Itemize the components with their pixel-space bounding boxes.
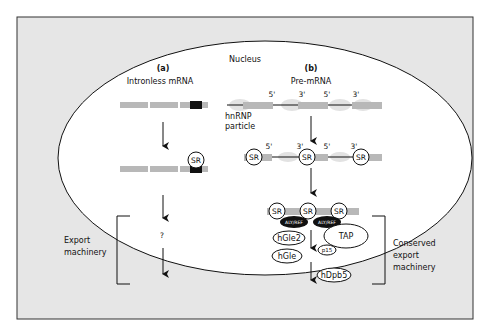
svg-text:TAP: TAP: [338, 232, 354, 241]
aly-ref-1: ALY/REF: [280, 216, 308, 228]
export-machinery-label-1: Export: [64, 236, 90, 245]
p15-protein: p15: [318, 245, 336, 255]
hnrnp-label-2: particle: [225, 122, 255, 131]
tap-protein: TAP: [324, 224, 368, 248]
nucleus-label: Nucleus: [229, 55, 261, 64]
svg-text:p15: p15: [322, 247, 333, 254]
site-label-7: 5': [324, 142, 331, 151]
conserved-label-2: export: [393, 251, 419, 260]
panel-a-title: Intronless mRNA: [127, 77, 194, 86]
site-label-1: 5': [269, 90, 276, 99]
panel-b-letter: (b): [304, 64, 317, 73]
mrna-export-diagram: Nucleus (a) Intronless mRNA (b) Pre-mRNA…: [0, 0, 487, 335]
svg-text:SR: SR: [356, 153, 366, 162]
sr-protein-c1: SR: [269, 203, 285, 219]
unknown-export-label: ?: [160, 231, 164, 240]
sr-protein-b3: SR: [353, 149, 369, 165]
svg-text:SR: SR: [191, 156, 201, 165]
svg-text:ALY/REF: ALY/REF: [318, 220, 336, 225]
site-label-8: 3': [351, 142, 358, 151]
site-label-2: 3': [299, 90, 306, 99]
sr-protein-a: SR: [188, 152, 204, 168]
hgle2-protein: hGle2: [273, 231, 305, 245]
svg-text:SR: SR: [334, 207, 344, 216]
conserved-label-1: Conserved: [393, 239, 436, 248]
sr-protein-c3: SR: [331, 203, 347, 219]
export-machinery-label-2: machinery: [64, 248, 107, 257]
conserved-label-3: machinery: [393, 263, 436, 272]
site-label-3: 5': [324, 90, 331, 99]
site-label-4: 3': [353, 90, 360, 99]
hnrnp-label-1: hnRNP: [225, 112, 252, 121]
svg-text:SR: SR: [249, 153, 259, 162]
hdpb5-protein: hDpb5: [317, 268, 351, 282]
intronless-mrna-top: [120, 101, 208, 109]
svg-text:SR: SR: [272, 207, 282, 216]
sr-protein-b1: SR: [246, 149, 262, 165]
panel-b-title: Pre-mRNA: [291, 77, 332, 86]
site-label-5: 5': [266, 142, 273, 151]
sr-protein-b2: SR: [299, 149, 315, 165]
hgle-protein: hGle: [272, 249, 302, 263]
svg-text:SR: SR: [302, 153, 312, 162]
site-label-6: 3': [297, 142, 304, 151]
svg-text:hDpb5: hDpb5: [321, 271, 347, 280]
svg-text:hGle2: hGle2: [277, 234, 301, 243]
svg-text:ALY/REF: ALY/REF: [285, 220, 303, 225]
panel-a-letter: (a): [157, 64, 170, 73]
sr-protein-c2: SR: [300, 203, 316, 219]
svg-text:hGle: hGle: [278, 252, 296, 261]
svg-text:SR: SR: [303, 207, 313, 216]
